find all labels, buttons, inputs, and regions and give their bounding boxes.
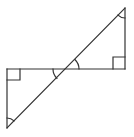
top-apex-angle-arc — [118, 15, 125, 18]
diagonal-transversal — [7, 8, 125, 128]
right-vertical-angle-arc — [75, 60, 79, 69]
left-right-angle-mark — [7, 69, 20, 80]
bottom-apex-angle-arc — [7, 118, 14, 121]
right-right-angle-mark — [113, 57, 125, 69]
vertical-angles-diagram — [0, 0, 134, 137]
left-vertical-angle-arc — [53, 69, 57, 78]
